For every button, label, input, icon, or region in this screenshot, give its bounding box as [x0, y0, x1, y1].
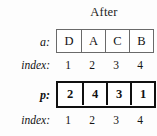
array-a-label: a:	[0, 35, 50, 49]
array-a-cell-2: A	[81, 30, 105, 52]
array-p-index-row: index: 1 2 3 4	[0, 113, 157, 127]
array-p-cell-4: 1	[130, 83, 154, 105]
array-a-index-3: 3	[104, 58, 128, 72]
array-p-label: p:	[0, 88, 50, 102]
array-diagram-figure: After a: D A C B index: 1 2 3 4 p: 2 4 3…	[0, 0, 157, 136]
array-a-index-values: 1 2 3 4	[56, 58, 152, 72]
array-a-cell-4: B	[129, 30, 153, 52]
array-p-cell-2: 4	[82, 83, 106, 105]
array-p-index-values: 1 2 3 4	[56, 113, 152, 127]
array-a-cell-3: C	[105, 30, 129, 52]
array-a-index-row: index: 1 2 3 4	[0, 58, 157, 72]
array-p-cell-1: 2	[58, 83, 82, 105]
array-p-index-3: 3	[104, 113, 128, 127]
array-p-index-2: 2	[80, 113, 104, 127]
array-a-boxes: D A C B	[56, 29, 154, 53]
array-p-boxes: 2 4 3 1	[56, 81, 156, 108]
array-a-index-2: 2	[80, 58, 104, 72]
array-p-index-label: index:	[0, 113, 50, 127]
array-a-index-1: 1	[56, 58, 80, 72]
array-a-index-4: 4	[128, 58, 152, 72]
array-a-cell-1: D	[57, 30, 81, 52]
array-p-index-4: 4	[128, 113, 152, 127]
figure-title: After	[56, 5, 152, 19]
array-p-index-1: 1	[56, 113, 80, 127]
array-p-cell-3: 3	[106, 83, 130, 105]
array-a-index-label: index:	[0, 58, 50, 72]
